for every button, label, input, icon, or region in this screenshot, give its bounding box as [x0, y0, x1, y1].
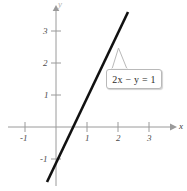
x-tick-label-neg1: -1	[20, 134, 28, 143]
coordinate-plane	[0, 0, 187, 191]
x-tick-label-3: 3	[147, 134, 152, 143]
x-tick-label-1: 1	[85, 134, 90, 143]
equation-callout: 2x − y = 1	[106, 69, 162, 89]
y-tick-label-2: 2	[43, 59, 48, 68]
graph-figure: -1 1 2 3 3 2 1 -1 x y 2x − y = 1	[0, 0, 187, 191]
y-tick-label-3: 3	[43, 27, 48, 36]
y-tick-label-1: 1	[44, 91, 49, 100]
y-axis-label: y	[58, 0, 62, 9]
equation-label: 2x − y = 1	[112, 74, 155, 85]
x-tick-label-2: 2	[116, 134, 121, 143]
plotted-line	[47, 12, 128, 182]
x-axis-label: x	[179, 122, 183, 131]
x-axis	[8, 124, 177, 131]
y-tick-label-neg1: -1	[40, 155, 48, 164]
callout-pointer	[112, 48, 127, 69]
